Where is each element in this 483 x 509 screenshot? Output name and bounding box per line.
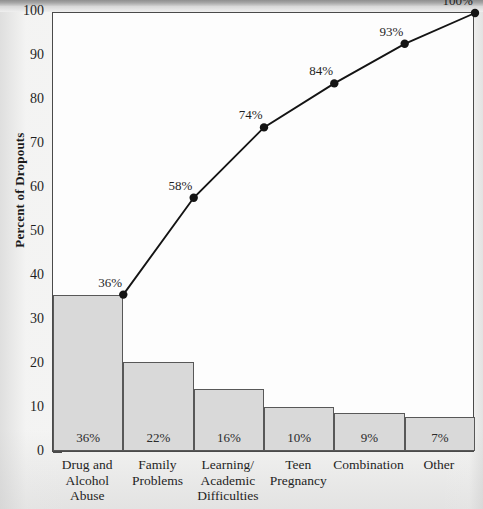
y-axis-title: Percent of Dropouts (12, 110, 28, 270)
y-axis-tick-label: 30 (10, 311, 44, 327)
cumulative-point-label: 58% (168, 178, 192, 194)
cumulative-line (123, 13, 475, 295)
cumulative-data-point (401, 40, 409, 48)
cumulative-data-point (119, 290, 127, 298)
cumulative-line-series (53, 13, 475, 453)
x-axis-category-label: Other (395, 457, 483, 473)
x-axis-category-label-line: Pregnancy (254, 473, 342, 489)
x-axis-category-label-line: Abuse (43, 488, 131, 504)
cumulative-data-point (471, 9, 479, 17)
cumulative-point-label: 36% (98, 275, 122, 291)
y-axis-tick-label: 90 (10, 47, 44, 63)
scanned-page: 0102030405060708090100 Percent of Dropou… (0, 0, 483, 509)
cumulative-point-label: 93% (379, 24, 403, 40)
cumulative-point-label: 84% (309, 63, 333, 79)
cumulative-data-point (190, 194, 198, 202)
cumulative-point-label: 74% (239, 107, 263, 123)
x-axis-category-label-line: Other (395, 457, 483, 473)
cumulative-data-point (330, 79, 338, 87)
y-axis-tick-label: 100 (10, 3, 44, 19)
x-axis-category-label-line: Difficulties (184, 488, 272, 504)
cumulative-point-label: 100% (442, 0, 472, 9)
y-axis-tick-label: 10 (10, 399, 44, 415)
y-axis-tick-label: 80 (10, 91, 44, 107)
cumulative-data-point (260, 123, 268, 131)
pareto-chart-plot-area: 36%22%16%10%9%7% 36%58%74%84%93%100% (52, 12, 474, 452)
y-axis-tick-label: 20 (10, 355, 44, 371)
y-axis-tick-label: 0 (10, 443, 44, 459)
